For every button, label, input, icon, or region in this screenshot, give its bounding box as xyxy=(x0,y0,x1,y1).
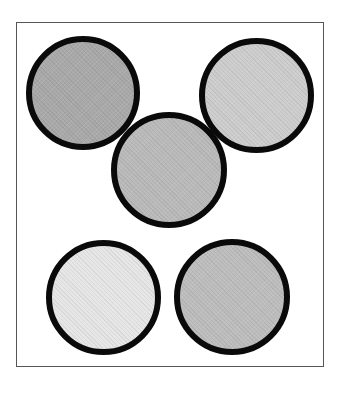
circle-bottom-left xyxy=(46,240,161,355)
circle-middle xyxy=(111,112,227,228)
circle-bottom-right xyxy=(174,239,290,355)
